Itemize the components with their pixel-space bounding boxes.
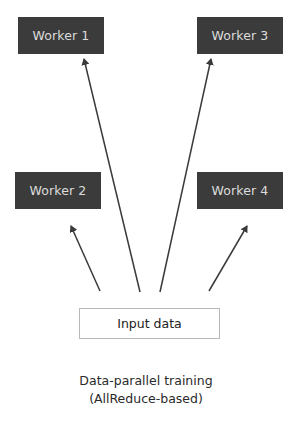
worker-1-node: Worker 1 — [18, 17, 104, 54]
worker-4-label: Worker 4 — [212, 183, 269, 198]
input-data-node: Input data — [79, 308, 220, 339]
worker-2-node: Worker 2 — [15, 172, 101, 209]
arrows-layer — [0, 0, 292, 423]
worker-4-node: Worker 4 — [197, 172, 283, 209]
arrow-to-worker-2 — [71, 226, 100, 291]
worker-1-label: Worker 1 — [33, 28, 90, 43]
caption-line-2: (AllReduce-based) — [0, 390, 292, 408]
worker-3-node: Worker 3 — [197, 17, 283, 54]
diagram-caption: Data-parallel training (AllReduce-based) — [0, 372, 292, 408]
arrow-to-worker-4 — [209, 226, 247, 291]
worker-2-label: Worker 2 — [30, 183, 87, 198]
input-data-label: Input data — [117, 316, 182, 331]
caption-line-1: Data-parallel training — [0, 372, 292, 390]
worker-3-label: Worker 3 — [212, 28, 269, 43]
